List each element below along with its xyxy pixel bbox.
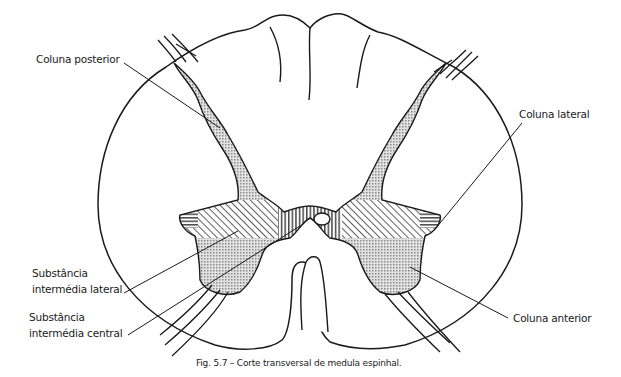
figure-caption: Fig. 5.7 – Corte transversal de medula e… [196, 358, 402, 368]
label-substancia-lateral-line2: intermédia lateral [32, 282, 122, 296]
label-substancia-lateral-line1: Substância [32, 266, 88, 280]
label-substancia-central-line1: Substância [29, 310, 85, 324]
label-coluna-lateral: Coluna lateral [519, 107, 590, 121]
label-substancia-central-line2: intermédia central [29, 326, 122, 340]
central-canal [314, 213, 330, 225]
label-coluna-anterior: Coluna anterior [513, 311, 591, 325]
label-coluna-posterior: Coluna posterior [36, 52, 120, 66]
